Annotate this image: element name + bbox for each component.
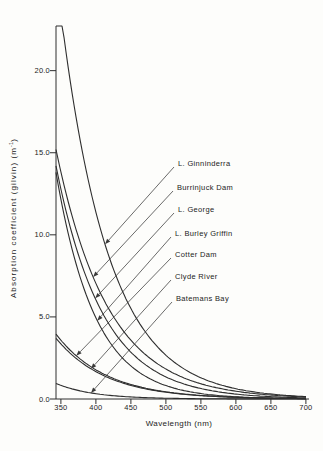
series-label-l-burley-griffin: L. Burley Griffin (175, 229, 233, 238)
leader-line-clyde-river (95, 280, 171, 365)
x-tick-label-450: 450 (118, 403, 144, 412)
series-label-batemans-bay: Batemans Bay (176, 294, 229, 303)
x-tick-label-400: 400 (83, 403, 109, 412)
leader-line-burrinjuck-dam (97, 191, 173, 273)
leader-line-cotter-dam (80, 258, 171, 352)
x-axis-title: Wavelength (nm) (118, 419, 240, 428)
series-label-cotter-dam: Cotter Dam (175, 250, 217, 259)
x-tick-label-350: 350 (48, 403, 74, 412)
y-tick-label-5: 5.0 (24, 312, 50, 321)
series-label-l-ginninderra: L. Ginninderra (178, 159, 230, 168)
x-tick-label-500: 500 (153, 403, 179, 412)
y-tick-label-10: 10.0 (24, 230, 50, 239)
y-axis-title-close: ) (9, 138, 18, 142)
leader-line-l-george (99, 213, 174, 294)
series-label-l-george: L. George (178, 205, 215, 214)
series-label-clyde-river: Clyde River (175, 272, 218, 281)
leader-line-l-burley-griffin (101, 237, 171, 317)
x-tick-label-700: 700 (293, 403, 319, 412)
y-tick-label-15: 15.0 (24, 148, 50, 157)
series-label-burrinjuck-dam: Burrinjuck Dam (177, 183, 233, 192)
y-tick-label-0: 0.0 (24, 395, 50, 404)
x-tick-label-550: 550 (188, 403, 214, 412)
x-tick-label-600: 600 (223, 403, 249, 412)
y-axis-title: Absorption coefficient (gilvin) (m-1) (8, 138, 19, 298)
leader-line-batemans-bay (95, 302, 172, 389)
y-axis-title-exponent: -1 (8, 142, 14, 147)
y-axis-title-text: Absorption coefficient (gilvin) (m (9, 147, 18, 298)
y-tick-label-20: 20.0 (24, 66, 50, 75)
gilvin-absorption-chart: Absorption coefficient (gilvin) (m-1) Wa… (0, 0, 323, 451)
x-tick-label-650: 650 (258, 403, 284, 412)
leader-line-l-ginninderra (109, 167, 174, 240)
